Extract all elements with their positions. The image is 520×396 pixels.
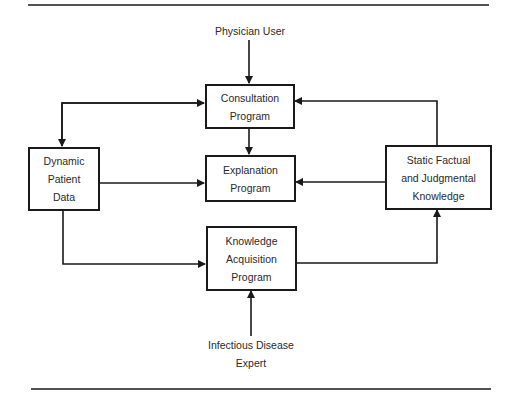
static-knowledge-box: Static Factual and Judgmental Knowledge: [385, 145, 492, 210]
dynamic-patient-data-box: Dynamic Patient Data: [28, 147, 100, 211]
explanation-program-box: Explanation Program: [205, 155, 296, 202]
physician-user-label: Physician User: [200, 22, 300, 40]
consultation-program-box: Consultation Program: [205, 84, 295, 129]
infectious-disease-expert-label: Infectious Disease Expert: [196, 336, 306, 372]
knowledge-acquisition-program-box: Knowledge Acquisition Program: [206, 226, 297, 291]
